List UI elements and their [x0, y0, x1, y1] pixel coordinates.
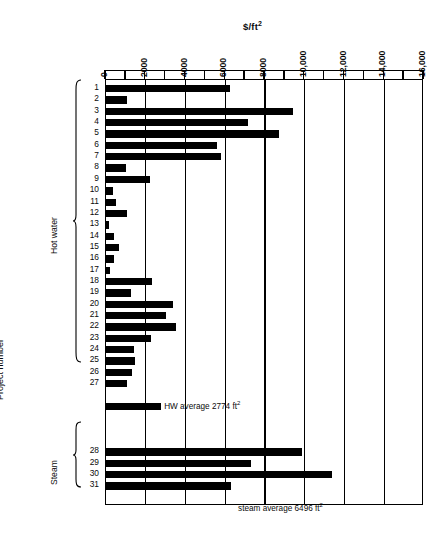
x-axis-tick [303, 70, 304, 79]
bar [106, 346, 134, 353]
x-axis-tick [263, 70, 264, 79]
y-tick-label: 21 [83, 309, 99, 319]
bar [106, 482, 231, 489]
gridline [304, 80, 305, 504]
y-tick-label: 29 [83, 457, 99, 467]
gridline [384, 80, 385, 504]
x-axis-tick [144, 70, 145, 79]
bar [106, 255, 114, 262]
bar [106, 85, 230, 92]
x-axis-tick [184, 70, 185, 79]
gridline [344, 80, 345, 504]
y-tick-label: 20 [83, 298, 99, 308]
x-axis-tick [343, 70, 344, 79]
y-tick-label: 9 [83, 173, 99, 183]
y-tick-label: 23 [83, 332, 99, 342]
bar [106, 267, 110, 274]
plot-area [105, 79, 423, 505]
x-axis-tick [124, 70, 125, 79]
bar [106, 369, 132, 376]
bar [106, 471, 332, 478]
y-tick-label: 13 [83, 218, 99, 228]
bar [106, 187, 113, 194]
y-tick-label: 28 [83, 445, 99, 455]
x-axis-tick [383, 70, 384, 79]
bar [106, 335, 151, 342]
y-tick-label: 17 [83, 264, 99, 274]
gridline [225, 80, 226, 504]
x-axis-tick [204, 70, 205, 79]
x-axis-tick [283, 70, 284, 79]
bar-chart: $/ft2 0200040006000800010,00012,00014,00… [0, 0, 442, 535]
bar [106, 380, 127, 387]
bar [106, 221, 109, 228]
y-tick-label: 4 [83, 116, 99, 126]
y-tick-label: 12 [83, 207, 99, 217]
summary-bar-label-text: steam average 6496 ft [238, 504, 319, 513]
x-axis-tick [243, 70, 244, 79]
y-tick-label: 1 [83, 82, 99, 92]
bar [106, 312, 166, 319]
bar [106, 448, 302, 455]
y-tick-label: 11 [83, 196, 99, 206]
summary-bar-annotation: HW average 2774 ft2 [164, 400, 240, 411]
y-tick-label: 26 [83, 366, 99, 376]
bar [106, 460, 251, 467]
group-label-hot-water: Hot water [49, 217, 59, 254]
bar [106, 289, 131, 296]
bar [106, 244, 119, 251]
bar [106, 301, 173, 308]
y-tick-label: 8 [83, 161, 99, 171]
bar [106, 108, 293, 115]
y-tick-label: 7 [83, 150, 99, 160]
y-tick-label: 2 [83, 93, 99, 103]
x-axis-title-text: $/ft [243, 21, 258, 32]
bar [106, 176, 150, 183]
summary-bar-annotation: steam average 6496 ft2 [238, 502, 323, 513]
x-axis-tick [323, 70, 324, 79]
bar [106, 278, 152, 285]
y-tick-label: 5 [83, 127, 99, 137]
summary-bar [106, 403, 161, 410]
bar [106, 199, 116, 206]
bar [106, 210, 127, 217]
bar [106, 119, 248, 126]
y-tick-label: 15 [83, 241, 99, 251]
x-axis-tick [104, 70, 105, 79]
bar [106, 233, 114, 240]
summary-bar-label-text: HW average 2774 ft [164, 402, 237, 411]
bar [106, 142, 217, 149]
bar [106, 96, 127, 103]
group-label-steam: Steam [49, 460, 59, 485]
y-tick-label: 25 [83, 354, 99, 364]
y-tick-label: 6 [83, 139, 99, 149]
y-tick-label: 10 [83, 184, 99, 194]
summary-bar-label-superscript: 2 [320, 502, 323, 508]
gridline [264, 80, 265, 504]
y-tick-label: 27 [83, 377, 99, 387]
bar [106, 357, 135, 364]
y-tick-label: 24 [83, 343, 99, 353]
y-tick-label: 3 [83, 105, 99, 115]
y-axis-title: Project number [0, 339, 5, 400]
y-tick-label: 30 [83, 468, 99, 478]
y-tick-label: 22 [83, 320, 99, 330]
bar [106, 323, 176, 330]
summary-bar-label-superscript: 2 [237, 400, 240, 406]
y-tick-label: 16 [83, 252, 99, 262]
x-axis-tick [422, 70, 423, 79]
y-tick-label: 31 [83, 479, 99, 489]
y-tick-label: 18 [83, 275, 99, 285]
group-bracket-steam [72, 421, 82, 488]
y-tick-label: 14 [83, 230, 99, 240]
bar [106, 153, 221, 160]
x-axis-tick [402, 70, 403, 79]
x-axis-tick [164, 70, 165, 79]
bar [106, 164, 126, 171]
y-tick-label: 19 [83, 286, 99, 296]
x-axis-title-superscript: 2 [258, 20, 262, 27]
x-axis-tick [224, 70, 225, 79]
x-axis-tick [363, 70, 364, 79]
x-axis-line [105, 70, 423, 71]
bar [106, 130, 279, 137]
